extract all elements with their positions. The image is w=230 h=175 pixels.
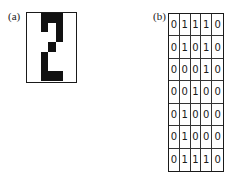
bitmap-pixel: [63, 62, 71, 72]
bitmap-pixel: [48, 32, 56, 42]
matrix-cell: 1: [201, 149, 212, 171]
matrix-cell: 0: [169, 149, 180, 171]
bitmap-pixel: [33, 42, 41, 52]
bitmap-pixel: [41, 71, 49, 81]
bitmap-pixel: [63, 32, 71, 42]
matrix-cell: 1: [180, 14, 191, 36]
panel-b-label: (b): [153, 10, 166, 22]
bitmap-pixel: [33, 71, 41, 81]
matrix-cell: 0: [169, 81, 180, 103]
matrix-cell: 0: [169, 126, 180, 148]
matrix-cell: 0: [212, 59, 223, 81]
bitmap-pixel: [41, 13, 49, 23]
bitmap-pixel: [63, 42, 71, 52]
bitmap-pixel: [56, 42, 64, 52]
bitmap-grid: [33, 13, 71, 81]
matrix-cell: 0: [191, 126, 202, 148]
bitmap-pixel: [48, 42, 56, 52]
bitmap-pixel: [56, 32, 64, 42]
matrix-cell: 1: [191, 14, 202, 36]
bitmap-pixel: [56, 13, 64, 23]
bitmap-pixel: [63, 13, 71, 23]
matrix-cell: 0: [212, 126, 223, 148]
matrix-cell: 0: [201, 81, 212, 103]
bitmap-pixel: [41, 62, 49, 72]
matrix-cell: 0: [212, 14, 223, 36]
matrix-cell: 0: [169, 59, 180, 81]
bitmap-pixel: [48, 71, 56, 81]
bitmap-pixel: [41, 23, 49, 33]
matrix-cell: 0: [212, 36, 223, 58]
matrix-cell: 1: [201, 59, 212, 81]
bitmap-pixel: [56, 23, 64, 33]
bitmap-pixel: [33, 32, 41, 42]
matrix-cell: 1: [191, 81, 202, 103]
matrix-cell: 0: [191, 36, 202, 58]
matrix-cell: 0: [169, 36, 180, 58]
bitmap-pixel: [41, 42, 49, 52]
matrix-cell: 0: [212, 81, 223, 103]
bitmap-pixel: [56, 62, 64, 72]
matrix-cell: 1: [180, 149, 191, 171]
matrix-cell: 0: [180, 59, 191, 81]
bitmap-pixel: [48, 13, 56, 23]
bitmap-pixel: [48, 23, 56, 33]
bitmap-pixel: [33, 52, 41, 62]
matrix-cell: 0: [180, 81, 191, 103]
matrix-cell: 0: [201, 104, 212, 126]
panel-a-label: (a): [8, 10, 20, 22]
matrix-cell: 1: [180, 36, 191, 58]
bitmap-pixel: [41, 32, 49, 42]
digit-bitmap: [26, 12, 77, 83]
matrix-cell: 1: [191, 149, 202, 171]
matrix-cell: 0: [212, 149, 223, 171]
bitmap-pixel: [33, 62, 41, 72]
matrix-cell: 1: [201, 14, 212, 36]
bitmap-pixel: [48, 62, 56, 72]
bitmap-pixel: [63, 52, 71, 62]
matrix-cell: 0: [212, 104, 223, 126]
bitmap-pixel: [63, 71, 71, 81]
matrix-cell: 0: [191, 104, 202, 126]
bitmap-pixel: [56, 71, 64, 81]
matrix-cell: 0: [169, 104, 180, 126]
bitmap-pixel: [33, 13, 41, 23]
bitmap-pixel: [33, 23, 41, 33]
matrix-cell: 1: [180, 126, 191, 148]
bitmap-pixel: [56, 52, 64, 62]
bitmap-pixel: [41, 52, 49, 62]
matrix-cell: 0: [201, 126, 212, 148]
matrix-cell: 0: [191, 59, 202, 81]
matrix-cell: 1: [201, 36, 212, 58]
matrix-cell: 0: [169, 14, 180, 36]
binary-matrix: 01110010100001000100010000100001110: [168, 13, 224, 172]
matrix-cell: 1: [180, 104, 191, 126]
bitmap-pixel: [63, 23, 71, 33]
bitmap-pixel: [48, 52, 56, 62]
